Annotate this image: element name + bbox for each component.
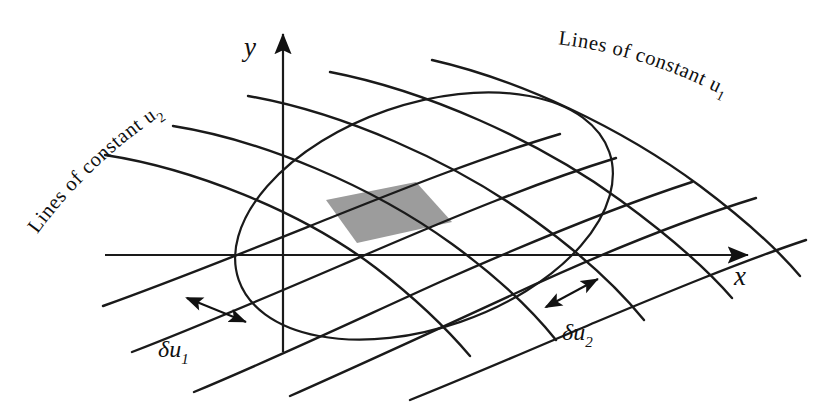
figure-container: y x Lines of constant u2 Lines of consta… bbox=[0, 0, 818, 406]
y-axis-label: y bbox=[241, 32, 256, 62]
delta-u2-subscript: 2 bbox=[585, 334, 593, 350]
dimension-delta-u1: δu1 bbox=[158, 298, 246, 367]
delta-u1-label: δu1 bbox=[158, 336, 189, 367]
label-lines-of-constant-u2: Lines of constant u2 bbox=[23, 103, 169, 236]
label-lines-of-constant-u1: Lines of constant u1 bbox=[557, 26, 727, 104]
gridline-u1-a bbox=[103, 134, 560, 306]
label-u2-main: Lines of constant u bbox=[23, 103, 160, 236]
x-axis-label: x bbox=[733, 261, 746, 291]
curvilinear-coordinates-diagram: y x Lines of constant u2 Lines of consta… bbox=[0, 0, 818, 406]
delta-u1-subscript: 1 bbox=[181, 351, 189, 367]
delta-u1-symbol: u bbox=[169, 336, 181, 362]
delta-u2-arrow bbox=[546, 279, 598, 307]
gridline-u2-d bbox=[330, 72, 732, 298]
grid-family-constant-u2 bbox=[105, 60, 800, 356]
delta-u2-symbol: u bbox=[573, 319, 585, 345]
gridline-u1-e bbox=[410, 240, 806, 400]
delta-u2-label: δu2 bbox=[562, 319, 593, 350]
label-u1-main: Lines of constant u bbox=[557, 26, 725, 96]
